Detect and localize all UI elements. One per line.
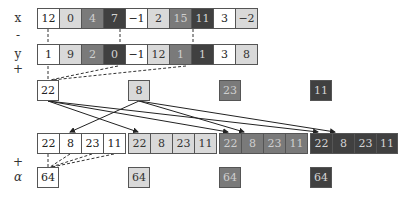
y-cell: 0 (103, 44, 126, 65)
gathered-cell: 8 (241, 133, 264, 154)
y-cell: 1 (191, 44, 214, 65)
alpha-box: 64 (219, 167, 241, 188)
y-cell: 8 (235, 44, 258, 65)
partial-sum-box: 23 (219, 80, 241, 101)
broadcast-arrows (48, 101, 335, 132)
partial-sum-box: 22 (37, 80, 59, 101)
gathered-cell: 8 (59, 133, 82, 154)
y-cell: 2 (81, 44, 104, 65)
y-cell: 1 (169, 44, 192, 65)
gathered-cell: 8 (150, 133, 173, 154)
x-cell: −2 (235, 8, 258, 29)
connector-lines (0, 0, 398, 199)
alpha-box: 64 (128, 167, 150, 188)
gathered-cell: 23 (354, 133, 377, 154)
x-cell: 0 (59, 8, 82, 29)
gathered-cell: 22 (219, 133, 242, 154)
x-cell: 15 (169, 8, 192, 29)
gathered-cell: 11 (376, 133, 398, 154)
x-cell: 12 (37, 8, 60, 29)
y-cell: −1 (125, 44, 148, 65)
y-cell: 3 (213, 44, 236, 65)
x-cell: −1 (125, 8, 148, 29)
x-cell: 11 (191, 8, 214, 29)
gathered-cell: 11 (285, 133, 308, 154)
alpha-box: 64 (37, 167, 59, 188)
partial-sum-box: 8 (128, 80, 150, 101)
alpha-box: 64 (310, 167, 332, 188)
gathered-cell: 8 (332, 133, 355, 154)
gathered-cell: 22 (310, 133, 333, 154)
x-cell: 7 (103, 8, 126, 29)
x-cell: 4 (81, 8, 104, 29)
x-cell: 2 (147, 8, 170, 29)
gathered-cell: 22 (128, 133, 151, 154)
partial-sum-box: 11 (310, 80, 332, 101)
gathered-cell: 22 (37, 133, 60, 154)
gathered-cell: 23 (172, 133, 195, 154)
gathered-cell: 23 (81, 133, 104, 154)
gathered-cell: 11 (103, 133, 126, 154)
x-cell: 3 (213, 8, 236, 29)
y-cell: 1 (37, 44, 60, 65)
y-cell: 9 (59, 44, 82, 65)
gathered-cell: 23 (263, 133, 286, 154)
gathered-cell: 11 (194, 133, 217, 154)
y-cell: 12 (147, 44, 170, 65)
